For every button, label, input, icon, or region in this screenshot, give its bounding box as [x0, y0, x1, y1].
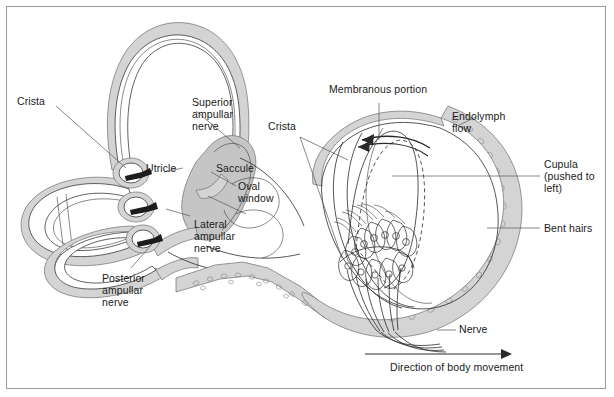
- endolymph-flow-arrow: [358, 134, 430, 156]
- label-membranous-portion: Membranous portion: [329, 83, 427, 95]
- label-nerve: Nerve: [459, 323, 488, 335]
- label-superior-ampullar-nerve: Superior ampullar nerve: [192, 96, 233, 133]
- label-utricle: Utricle: [146, 162, 176, 174]
- label-endolymph-flow: Endolymph flow: [452, 110, 505, 134]
- figure-root: .ln { fill:none; stroke:#2a2a2a; stroke-…: [0, 0, 614, 397]
- label-direction-of-body-movement: Direction of body movement: [390, 361, 523, 373]
- label-oval-window: Oval window: [238, 180, 274, 204]
- label-lateral-ampullar-nerve: Lateral ampullar nerve: [194, 218, 235, 255]
- left-labyrinth-group: [21, 23, 304, 298]
- connecting-duct: [176, 262, 325, 318]
- label-bent-hairs: Bent hairs: [544, 222, 592, 234]
- label-cupula: Cupula (pushed to left): [544, 158, 614, 195]
- label-crista-left: Crista: [17, 95, 45, 107]
- label-saccule: Saccule: [216, 162, 254, 174]
- right-ampulla-group: [302, 106, 522, 352]
- diagram-artwork: .ln { fill:none; stroke:#2a2a2a; stroke-…: [0, 0, 614, 397]
- label-posterior-ampullar-nerve: Posterior ampullar nerve: [102, 272, 145, 309]
- label-crista-right: Crista: [268, 120, 296, 132]
